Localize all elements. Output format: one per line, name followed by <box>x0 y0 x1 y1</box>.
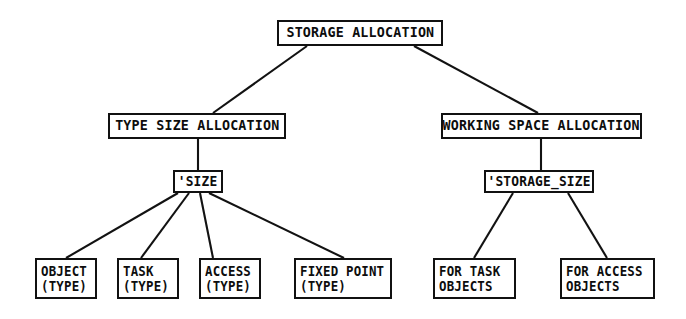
node-label-line: 'STORAGE_SIZE <box>487 174 590 189</box>
node-task-type: TASK(TYPE) <box>117 258 179 299</box>
node-label-line: WORKING SPACE ALLOCATION <box>443 118 640 134</box>
node-access-type: ACCESS(TYPE) <box>199 258 261 299</box>
node-size-attribute: 'SIZE <box>173 170 223 193</box>
node-label-line: OBJECT <box>41 264 87 279</box>
node-storage-size-attribute: 'STORAGE_SIZE <box>484 170 594 193</box>
node-for-task-objects: FOR TASKOBJECTS <box>433 258 516 299</box>
node-label-line: FIXED POINT <box>300 264 384 279</box>
node-object-type: OBJECT(TYPE) <box>35 258 97 299</box>
storage-allocation-diagram: STORAGE ALLOCATIONTYPE SIZE ALLOCATIONWO… <box>0 0 686 319</box>
node-label-line: OBJECTS <box>439 279 493 294</box>
edge-storage-size-to-for-task <box>474 193 513 258</box>
edge-root-to-working-space <box>414 46 538 113</box>
edge-root-to-type-size <box>213 46 307 113</box>
node-label-line: (TYPE) <box>300 279 346 294</box>
edge-size-to-task <box>141 193 189 258</box>
node-working-space-allocation: WORKING SPACE ALLOCATION <box>441 113 642 139</box>
node-label-line: 'SIZE <box>178 174 218 189</box>
node-label-line: TYPE SIZE ALLOCATION <box>115 118 279 134</box>
node-root: STORAGE ALLOCATION <box>277 20 443 46</box>
node-label-line: STORAGE ALLOCATION <box>286 25 434 41</box>
edge-storage-size-to-for-access <box>568 193 607 258</box>
node-label-line: FOR TASK <box>439 264 500 279</box>
edge-size-to-access <box>200 193 213 258</box>
node-label-line: FOR ACCESS <box>566 264 643 279</box>
node-label-line: OBJECTS <box>566 279 620 294</box>
edge-size-to-fixed-point <box>209 193 344 258</box>
node-label-line: (TYPE) <box>123 279 169 294</box>
edge-size-to-object <box>66 193 178 258</box>
node-label-line: TASK <box>123 264 154 279</box>
node-label-line: (TYPE) <box>41 279 87 294</box>
node-for-access-objects: FOR ACCESSOBJECTS <box>560 258 655 299</box>
node-type-size-allocation: TYPE SIZE ALLOCATION <box>108 113 286 139</box>
node-label-line: ACCESS <box>205 264 251 279</box>
node-fixed-point-type: FIXED POINT(TYPE) <box>294 258 392 299</box>
node-label-line: (TYPE) <box>205 279 251 294</box>
